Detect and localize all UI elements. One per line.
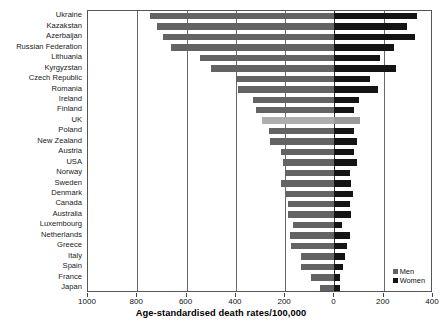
bar-row [88, 191, 431, 197]
bar-row [88, 264, 431, 270]
bar-women [334, 97, 359, 103]
plot-area: Men Women [87, 10, 432, 292]
legend-label-women: Women [400, 276, 425, 285]
category-label-netherlands: Netherlands [0, 231, 82, 239]
bar-row [88, 274, 431, 280]
bar-row [88, 65, 431, 71]
category-axis-labels: UkraineKazakstanAzerbaijanRussian Federa… [0, 10, 85, 292]
bar-men [253, 97, 334, 103]
bar-men [211, 65, 334, 71]
category-label-france: France [0, 273, 82, 281]
legend-label-men: Men [400, 267, 414, 276]
category-label-ukraine: Ukraine [0, 11, 82, 19]
bar-row [88, 201, 431, 207]
bar-men [270, 138, 334, 144]
category-label-romania: Romania [0, 85, 82, 93]
category-label-poland: Poland [0, 126, 82, 134]
x-axis-title: Age-standardised death rates/100,000 [0, 308, 442, 318]
bar-men [163, 34, 334, 40]
bar-women [334, 243, 346, 249]
legend-item-women: Women [393, 276, 425, 285]
bar-women [334, 44, 393, 50]
bar-men [285, 170, 334, 176]
bar-row [88, 86, 431, 92]
bar-men [256, 107, 335, 113]
bar-row [88, 13, 431, 19]
bar-row [88, 253, 431, 259]
legend-swatch-women-icon [393, 278, 398, 283]
bar-row [88, 243, 431, 249]
bar-men [320, 285, 335, 291]
legend-swatch-men-icon [393, 269, 398, 274]
bar-women [334, 222, 342, 228]
bar-women [334, 76, 370, 82]
bar-row [88, 211, 431, 217]
bar-men [150, 13, 335, 19]
bar-women [334, 117, 360, 123]
category-label-spain: Spain [0, 262, 82, 270]
bar-men [171, 44, 335, 50]
bar-row [88, 128, 431, 134]
axis-tick-label: 200 [277, 297, 290, 306]
bar-men [290, 232, 334, 238]
bar-row [88, 170, 431, 176]
bar-men [238, 86, 334, 92]
category-label-luxembourg: Luxembourg [0, 220, 82, 228]
category-label-australia: Australia [0, 210, 82, 218]
bar-women [334, 23, 407, 29]
category-label-denmark: Denmark [0, 189, 82, 197]
bar-men [281, 180, 334, 186]
category-label-greece: Greece [0, 241, 82, 249]
category-label-ireland: Ireland [0, 95, 82, 103]
bar-row [88, 149, 431, 155]
category-label-new-zealand: New Zealand [0, 137, 82, 145]
axis-tick-label: 400 [425, 297, 438, 306]
axis-tick-label: 200 [376, 297, 389, 306]
axis-tick-label: 600 [179, 297, 192, 306]
bar-row [88, 97, 431, 103]
bar-women [334, 211, 351, 217]
category-label-uk: UK [0, 116, 82, 124]
bar-row [88, 23, 431, 29]
bar-row [88, 107, 431, 113]
value-axis: 10008006004002000200400 [87, 293, 432, 307]
axis-tick-label: 400 [228, 297, 241, 306]
category-label-finland: Finland [0, 105, 82, 113]
bar-men [236, 76, 335, 82]
bar-men [291, 243, 334, 249]
bar-men [262, 117, 335, 123]
bar-men [286, 191, 334, 197]
bar-row [88, 285, 431, 291]
category-label-italy: Italy [0, 252, 82, 260]
category-label-usa: USA [0, 158, 82, 166]
bar-women [334, 232, 349, 238]
legend-item-men: Men [393, 267, 425, 276]
bar-men [293, 222, 335, 228]
chart-container: UkraineKazakstanAzerbaijanRussian Federa… [0, 0, 442, 323]
bar-men [269, 128, 334, 134]
bar-men [281, 149, 334, 155]
bar-women [334, 264, 343, 270]
bar-men [288, 211, 335, 217]
bar-row [88, 222, 431, 228]
bar-row [88, 117, 431, 123]
category-label-kyrgyzstan: Kyrgyzstan [0, 64, 82, 72]
bar-row [88, 232, 431, 238]
category-label-austria: Austria [0, 147, 82, 155]
bar-row [88, 76, 431, 82]
bar-women [334, 65, 396, 71]
bar-women [334, 149, 354, 155]
category-label-canada: Canada [0, 199, 82, 207]
bar-women [334, 13, 417, 19]
bar-row [88, 55, 431, 61]
bar-women [334, 55, 380, 61]
bar-women [334, 285, 339, 291]
axis-tick-label: 1000 [78, 297, 96, 306]
category-label-sweden: Sweden [0, 179, 82, 187]
bar-women [334, 201, 350, 207]
bar-men [157, 23, 334, 29]
category-label-kazakstan: Kazakstan [0, 22, 82, 30]
category-label-azerbaijan: Azerbaijan [0, 32, 82, 40]
bar-women [334, 107, 354, 113]
bar-women [334, 170, 349, 176]
